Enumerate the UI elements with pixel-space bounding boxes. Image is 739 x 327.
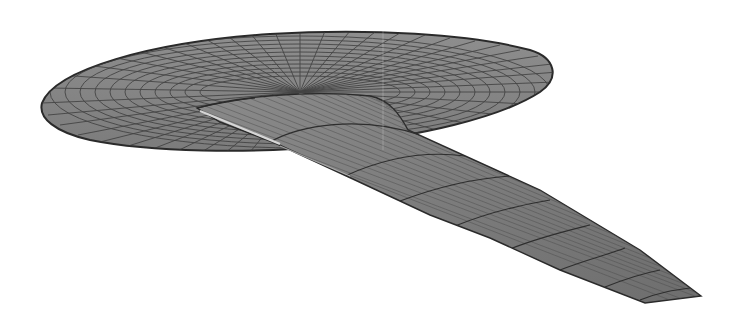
mesh-figure	[0, 0, 739, 327]
figure-canvas	[0, 0, 739, 327]
